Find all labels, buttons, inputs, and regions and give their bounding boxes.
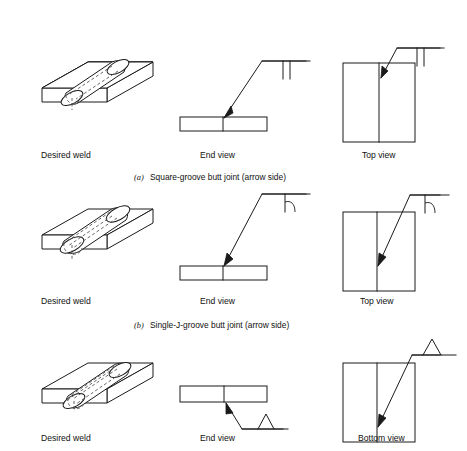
row-square-groove: Desired weld End view — [41, 48, 444, 182]
weld-symbol-square-groove — [417, 48, 424, 66]
view-c-bottom: Bottom view — [343, 339, 456, 443]
view-b-end: End view — [180, 194, 310, 306]
view-a-iso-label: Desired weld — [41, 150, 91, 160]
caption-a-marker: (a) — [134, 173, 144, 182]
weld-symbol-single-v-groove — [423, 339, 441, 355]
weld-symbol-single-j-groove — [285, 194, 295, 212]
view-c-bottom-label: Bottom view — [358, 433, 406, 443]
leader-arrowhead — [224, 106, 233, 118]
caption-b-text: Single-J-groove butt joint (arrow side) — [150, 320, 289, 330]
view-a-iso: Desired weld — [41, 56, 153, 160]
view-a-end-label: End view — [200, 150, 236, 160]
view-a-end: End view — [180, 61, 310, 160]
view-c-iso: Desired weld — [41, 359, 153, 443]
weld-symbol-square-groove — [283, 61, 290, 79]
weld-symbol-single-j-groove — [425, 195, 435, 213]
view-b-top-label: Top view — [360, 296, 394, 306]
view-a-top-label: Top view — [362, 150, 396, 160]
row-single-j-groove: Desired weld End view — [41, 194, 449, 330]
caption-a-text: Square-groove butt joint (arrow side) — [150, 172, 286, 182]
caption-a: (a) Square-groove butt joint (arrow side… — [134, 172, 286, 182]
view-b-iso: Desired weld — [41, 202, 153, 306]
caption-b-marker: (b) — [134, 321, 144, 330]
view-a-top: Top view — [343, 48, 444, 160]
welding-symbols-figure: Desired weld End view — [0, 0, 467, 451]
row-single-v-groove: Desired weld End view Bott — [41, 339, 456, 443]
view-b-top: Top view — [343, 195, 449, 306]
leader-arrowhead — [226, 403, 233, 414]
view-b-end-label: End view — [200, 296, 236, 306]
view-c-end-label: End view — [200, 433, 236, 443]
view-c-iso-label: Desired weld — [41, 433, 91, 443]
view-c-end: End view — [180, 386, 288, 443]
view-b-iso-label: Desired weld — [41, 296, 91, 306]
weld-symbol-single-v-groove — [258, 414, 274, 429]
caption-b: (b) Single-J-groove butt joint (arrow si… — [134, 320, 289, 330]
leader-arrowhead — [224, 253, 233, 266]
